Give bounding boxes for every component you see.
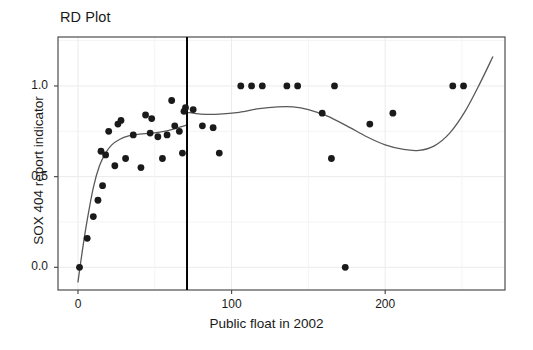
x-tick-label: 200: [365, 297, 405, 311]
axis-ticks: [54, 86, 385, 294]
scatter-point: [190, 106, 197, 113]
scatter-point: [331, 83, 338, 90]
scatter-point: [449, 83, 456, 90]
scatter-point: [130, 132, 137, 139]
plot-frame: [58, 37, 505, 290]
scatter-point: [176, 128, 183, 135]
scatter-point: [118, 117, 125, 124]
y-tick-label: 1.0: [8, 78, 48, 92]
scatter-point: [342, 264, 349, 271]
scatter-point: [216, 150, 223, 157]
scatter-point: [319, 110, 326, 117]
y-tick-label: 0.5: [8, 169, 48, 183]
scatter-point: [90, 213, 97, 220]
scatter-point: [138, 164, 145, 171]
scatter-point: [164, 132, 171, 139]
scatter-point: [159, 155, 166, 162]
scatter-point: [154, 133, 161, 140]
scatter-point: [142, 112, 149, 119]
scatter-point: [366, 121, 373, 128]
plot-border: [58, 37, 505, 290]
scatter-point: [460, 83, 467, 90]
scatter-point: [199, 122, 206, 129]
left-of-cutoff-fit: [78, 125, 187, 282]
scatter-point: [179, 150, 186, 157]
scatter-point: [148, 115, 155, 122]
x-axis-label: Public float in 2002: [0, 316, 533, 331]
rd-plot-figure: RD Plot Public float in 2002 SOX 404 rep…: [0, 0, 533, 350]
y-tick-label: 0.0: [8, 259, 48, 273]
x-tick-label: 0: [58, 297, 98, 311]
scatter-point: [168, 97, 175, 104]
scatter-point: [171, 122, 178, 129]
scatter-point: [259, 83, 266, 90]
scatter-point: [105, 128, 112, 135]
scatter-point: [248, 83, 255, 90]
scatter-point: [147, 130, 154, 137]
scatter-point: [102, 151, 109, 158]
scatter-point: [283, 83, 290, 90]
scatter-point: [76, 264, 83, 271]
scatter-point: [99, 182, 106, 189]
scatter-point: [111, 162, 118, 169]
x-tick-label: 100: [212, 297, 252, 311]
scatter-point: [294, 83, 301, 90]
right-of-cutoff-fit: [187, 57, 493, 151]
scatter-point: [210, 124, 217, 131]
scatter-point: [237, 83, 244, 90]
scatter-point: [182, 104, 189, 111]
scatter-point: [328, 155, 335, 162]
gridlines-group: [58, 37, 505, 290]
scatter-point: [389, 110, 396, 117]
scatter-point: [122, 155, 129, 162]
scatter-point: [84, 235, 91, 242]
scatter-point: [95, 197, 102, 204]
